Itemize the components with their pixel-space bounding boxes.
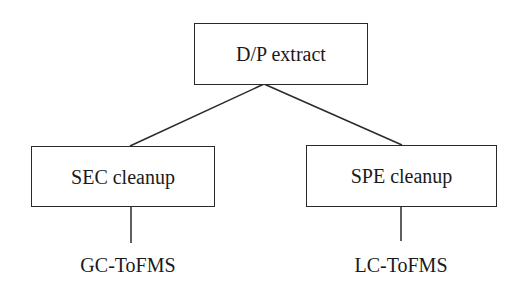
- leaf-gc-tofms: GC-ToFMS: [80, 255, 175, 275]
- node-dp-extract: D/P extract: [194, 23, 368, 85]
- flowchart-canvas: D/P extract SEC cleanup SPE cleanup GC-T…: [0, 0, 527, 284]
- leaf-lc-tofms: LC-ToFMS: [354, 255, 447, 275]
- node-dp-extract-label: D/P extract: [236, 44, 326, 64]
- node-spe-cleanup: SPE cleanup: [306, 145, 497, 207]
- node-sec-cleanup: SEC cleanup: [31, 146, 215, 207]
- edge-root-to-spe: [264, 84, 402, 145]
- node-spe-cleanup-label: SPE cleanup: [351, 166, 453, 186]
- edge-root-to-sec: [130, 84, 264, 146]
- node-sec-cleanup-label: SEC cleanup: [71, 167, 175, 187]
